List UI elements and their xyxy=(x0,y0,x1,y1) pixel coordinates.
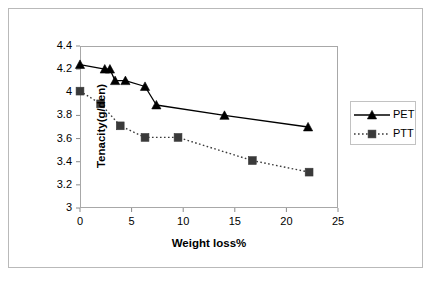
x-tick-label: 0 xyxy=(65,215,95,227)
legend-item-ptt[interactable]: PTT xyxy=(351,125,417,143)
chart-figure: 33.23.43.63.844.24.4 0510152025 Tenacity… xyxy=(0,0,441,285)
y-tick-label: 3.6 xyxy=(38,132,72,144)
y-axis-title: Tenacity(g/den) xyxy=(95,51,107,201)
y-tick-label: 4.2 xyxy=(38,62,72,74)
legend-label: PTT xyxy=(393,127,414,139)
chart-legend: PETPTT xyxy=(350,101,416,145)
x-axis-title: Weight loss% xyxy=(80,237,338,249)
axis-tick-marks xyxy=(76,46,338,212)
y-tick-label: 3 xyxy=(38,201,72,213)
legend-marker-square-icon xyxy=(353,125,391,143)
data-series-layer xyxy=(75,60,313,176)
x-tick-label: 10 xyxy=(168,215,198,227)
legend-label: PET xyxy=(393,108,414,120)
y-tick-label: 4 xyxy=(38,85,72,97)
x-tick-label: 5 xyxy=(117,215,147,227)
y-tick-label: 3.8 xyxy=(38,108,72,120)
x-tick-label: 25 xyxy=(323,215,353,227)
legend-marker-triangle-icon xyxy=(353,106,391,124)
x-tick-label: 15 xyxy=(220,215,250,227)
x-tick-label: 20 xyxy=(271,215,301,227)
legend-item-pet[interactable]: PET xyxy=(351,106,417,124)
y-tick-label: 3.4 xyxy=(38,155,72,167)
y-tick-label: 4.4 xyxy=(38,39,72,51)
y-tick-label: 3.2 xyxy=(38,178,72,190)
